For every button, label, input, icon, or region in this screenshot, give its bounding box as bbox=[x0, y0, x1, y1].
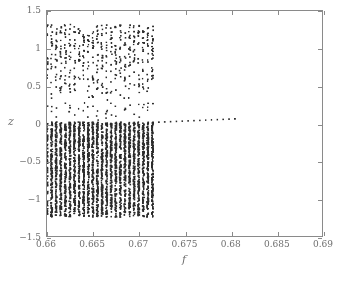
x-tick-label-1: 0.665 bbox=[79, 240, 105, 249]
y-tick-label-2: −0.5 bbox=[19, 157, 41, 166]
y-tick-6 bbox=[47, 11, 51, 12]
x-tick-5 bbox=[278, 232, 279, 236]
y-tick-1 bbox=[47, 200, 51, 201]
x-tick-1 bbox=[93, 11, 94, 15]
y-tick-4 bbox=[318, 87, 322, 88]
y-tick-3 bbox=[318, 125, 322, 126]
y-tick-label-3: 0 bbox=[35, 119, 41, 128]
y-tick-2 bbox=[318, 162, 322, 163]
x-tick-0 bbox=[47, 232, 48, 236]
x-tick-3 bbox=[186, 232, 187, 236]
y-tick-label-0: −1.5 bbox=[19, 233, 41, 242]
x-tick-label-4: 0.68 bbox=[221, 240, 241, 249]
x-tick-2 bbox=[139, 11, 140, 15]
x-tick-3 bbox=[186, 11, 187, 15]
x-tick-label-5: 0.685 bbox=[264, 240, 290, 249]
y-tick-label-5: 1 bbox=[35, 43, 41, 52]
y-tick-label-6: 1.5 bbox=[27, 6, 41, 15]
y-tick-5 bbox=[47, 49, 51, 50]
x-tick-label-2: 0.67 bbox=[128, 240, 148, 249]
y-tick-label-4: 0.5 bbox=[27, 81, 41, 90]
y-tick-1 bbox=[318, 200, 322, 201]
y-tick-6 bbox=[318, 11, 322, 12]
bifurcation-figure: 0.660.6650.670.6750.680.6850.69 −1.5−1−0… bbox=[0, 0, 340, 281]
x-tick-6 bbox=[324, 11, 325, 15]
y-tick-4 bbox=[47, 87, 51, 88]
y-tick-label-1: −1 bbox=[28, 195, 41, 204]
x-tick-2 bbox=[139, 232, 140, 236]
scatter-plot-canvas bbox=[47, 11, 322, 236]
x-tick-label-3: 0.675 bbox=[172, 240, 198, 249]
y-axis-title: z bbox=[8, 116, 14, 127]
plot-frame bbox=[46, 10, 323, 237]
caption-remnant bbox=[0, 273, 340, 281]
y-tick-3 bbox=[47, 125, 51, 126]
x-tick-6 bbox=[324, 232, 325, 236]
x-axis-title: f bbox=[182, 254, 186, 265]
y-tick-5 bbox=[318, 49, 322, 50]
x-tick-5 bbox=[278, 11, 279, 15]
y-tick-2 bbox=[47, 162, 51, 163]
x-tick-1 bbox=[93, 232, 94, 236]
x-tick-label-6: 0.69 bbox=[313, 240, 333, 249]
x-tick-4 bbox=[232, 11, 233, 15]
x-tick-4 bbox=[232, 232, 233, 236]
